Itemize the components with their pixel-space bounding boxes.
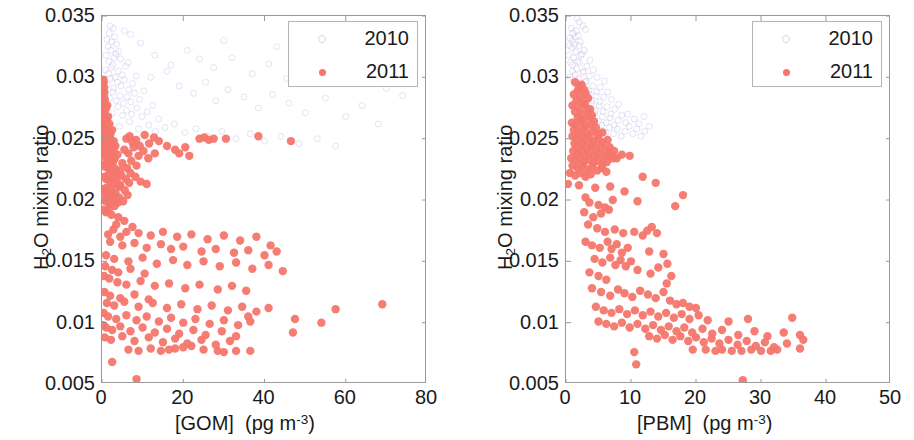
data-point bbox=[181, 284, 189, 292]
data-point bbox=[120, 298, 128, 306]
data-point bbox=[242, 287, 250, 295]
data-point bbox=[111, 142, 119, 150]
data-point bbox=[606, 253, 614, 261]
data-point bbox=[171, 344, 179, 352]
data-point bbox=[211, 65, 217, 71]
data-point bbox=[597, 209, 605, 217]
x-axis-title-pbm: [PBM] (pg m-3) bbox=[637, 412, 772, 435]
data-point bbox=[642, 128, 648, 134]
data-point bbox=[124, 257, 132, 265]
data-point bbox=[702, 345, 710, 353]
data-point bbox=[734, 331, 742, 339]
data-point bbox=[630, 348, 638, 356]
data-point bbox=[123, 191, 131, 199]
data-point bbox=[589, 213, 597, 221]
data-point bbox=[761, 338, 769, 346]
data-point bbox=[189, 326, 197, 334]
data-point bbox=[587, 170, 595, 178]
data-point bbox=[626, 123, 632, 129]
x-axis-title-units-prefix: (pg m bbox=[245, 412, 296, 434]
y-tick-label: 0.035 bbox=[469, 5, 559, 25]
x-tick-label: 40 bbox=[234, 387, 294, 407]
data-point bbox=[115, 104, 121, 110]
data-point bbox=[133, 73, 139, 79]
y-tick-label: 0.01 bbox=[5, 312, 95, 332]
data-point bbox=[593, 224, 601, 232]
data-point bbox=[718, 326, 726, 334]
data-point bbox=[788, 314, 796, 322]
data-point bbox=[151, 282, 159, 290]
data-point bbox=[266, 241, 274, 249]
data-point bbox=[116, 233, 124, 241]
data-point bbox=[159, 338, 167, 346]
data-point bbox=[117, 93, 123, 99]
data-point bbox=[704, 316, 712, 324]
data-point bbox=[597, 288, 605, 296]
data-point bbox=[279, 267, 287, 275]
data-point bbox=[140, 131, 148, 139]
data-point bbox=[120, 217, 128, 225]
data-point bbox=[197, 247, 205, 255]
data-point bbox=[220, 231, 228, 239]
data-point bbox=[631, 306, 639, 314]
data-point bbox=[577, 39, 583, 45]
data-point bbox=[106, 58, 112, 64]
data-point bbox=[331, 305, 339, 313]
data-point bbox=[604, 104, 610, 110]
data-point bbox=[199, 345, 207, 353]
data-point bbox=[236, 236, 244, 244]
data-point bbox=[114, 79, 120, 85]
data-point bbox=[122, 280, 130, 288]
data-point bbox=[114, 41, 120, 47]
data-point bbox=[623, 310, 631, 318]
y-axis-title-sub: 2 bbox=[39, 248, 54, 256]
data-point bbox=[605, 89, 611, 95]
data-point bbox=[163, 142, 171, 150]
data-point bbox=[218, 327, 226, 335]
data-point bbox=[624, 244, 632, 252]
data-point bbox=[260, 251, 268, 259]
y-tick-label: 0.03 bbox=[5, 66, 95, 86]
data-point bbox=[125, 179, 133, 187]
data-point bbox=[737, 347, 745, 355]
data-point bbox=[593, 93, 599, 99]
data-point bbox=[244, 312, 252, 320]
data-point bbox=[286, 100, 292, 106]
data-point bbox=[229, 55, 235, 61]
y-axis-title-rest: O mixing ratio bbox=[494, 125, 516, 248]
x-axis-title-units-suffix: ) bbox=[766, 412, 773, 434]
data-point bbox=[114, 268, 122, 276]
data-point bbox=[134, 229, 142, 237]
data-point bbox=[104, 312, 112, 320]
data-point bbox=[129, 111, 135, 117]
data-point bbox=[618, 150, 626, 158]
data-point bbox=[317, 318, 325, 326]
data-point bbox=[289, 328, 297, 336]
data-point bbox=[230, 249, 238, 257]
data-point bbox=[138, 253, 146, 261]
data-point bbox=[646, 307, 654, 315]
data-point bbox=[264, 304, 272, 312]
data-point bbox=[724, 336, 732, 344]
data-point bbox=[255, 105, 261, 111]
data-point bbox=[600, 306, 608, 314]
data-point bbox=[225, 87, 231, 93]
data-point bbox=[175, 149, 183, 157]
data-point bbox=[252, 233, 260, 241]
data-point bbox=[179, 242, 187, 250]
data-point bbox=[592, 303, 600, 311]
data-point bbox=[274, 44, 280, 50]
data-point bbox=[129, 80, 135, 86]
x-tick-label: 20 bbox=[665, 387, 725, 407]
data-point bbox=[607, 309, 615, 317]
data-point bbox=[118, 332, 126, 340]
y-axis-title-lead: H bbox=[494, 256, 516, 270]
data-point bbox=[659, 250, 667, 258]
data-point bbox=[264, 261, 272, 269]
data-point bbox=[605, 206, 613, 214]
data-point bbox=[773, 345, 781, 353]
x-tick-label: 0 bbox=[535, 387, 595, 407]
data-point bbox=[618, 318, 626, 326]
data-point bbox=[139, 114, 145, 120]
data-point bbox=[799, 336, 807, 344]
